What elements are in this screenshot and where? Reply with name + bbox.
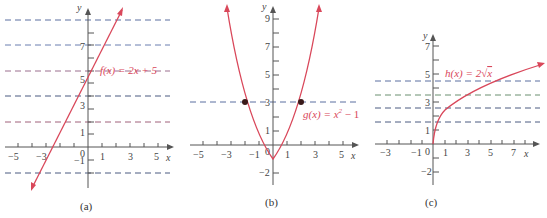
- svg-text:1: 1: [100, 151, 105, 162]
- intersection-point: [298, 99, 304, 105]
- svg-text:−3: −3: [221, 149, 232, 160]
- svg-text:1: 1: [443, 147, 448, 158]
- svg-text:1: 1: [80, 127, 85, 138]
- svg-text:5: 5: [425, 69, 430, 80]
- svg-text:7: 7: [80, 41, 85, 52]
- caption-b: (b): [265, 196, 278, 208]
- svg-text:−5: −5: [193, 149, 204, 160]
- intersection-point: [242, 99, 248, 105]
- svg-text:x: x: [523, 148, 529, 159]
- svg-text:5: 5: [339, 149, 344, 160]
- svg-text:−2: −2: [421, 166, 432, 177]
- svg-text:−3: −3: [380, 147, 391, 158]
- svg-text:5: 5: [154, 151, 159, 162]
- caption-a: (a): [80, 200, 92, 212]
- svg-text:y: y: [76, 2, 82, 13]
- graph-a: −5−3 01 35 x 75 31 −1 y f(x) = 2x + 5: [0, 0, 185, 218]
- svg-text:7: 7: [265, 41, 270, 52]
- svg-text:3: 3: [313, 149, 318, 160]
- function-label-f: f(x) = 2x + 5: [100, 64, 157, 77]
- svg-text:0: 0: [425, 146, 430, 157]
- svg-text:x: x: [165, 152, 171, 163]
- svg-text:−1: −1: [411, 147, 422, 158]
- graph-c: −3−1 01 35 7x 75 31 −2 y h(x) = 2√x: [365, 0, 547, 218]
- panel-b: −5−3 −10 13 5x 97 53 1−2 y g(x) = x2 − 1…: [185, 0, 365, 218]
- svg-text:y: y: [422, 30, 428, 41]
- graph-b: −5−3 −10 13 5x 97 53 1−2 y g(x) = x2 − 1: [185, 0, 365, 218]
- function-label-g: g(x) = x2 − 1: [303, 107, 359, 121]
- svg-text:3: 3: [128, 151, 133, 162]
- svg-text:y: y: [261, 1, 267, 12]
- svg-text:1: 1: [425, 125, 430, 136]
- svg-text:3: 3: [80, 100, 85, 111]
- svg-text:5: 5: [265, 69, 270, 80]
- svg-text:3: 3: [465, 147, 470, 158]
- svg-text:3: 3: [265, 97, 270, 108]
- svg-text:9: 9: [265, 13, 270, 24]
- svg-text:−3: −3: [36, 151, 47, 162]
- svg-text:7: 7: [511, 147, 516, 158]
- svg-text:1: 1: [285, 149, 290, 160]
- svg-text:x: x: [350, 150, 356, 161]
- svg-text:−5: −5: [8, 151, 19, 162]
- svg-text:7: 7: [425, 41, 430, 52]
- svg-text:−2: −2: [259, 167, 270, 178]
- panel-c: −3−1 01 35 7x 75 31 −2 y h(x) = 2√x (c): [365, 0, 547, 218]
- caption-c: (c): [425, 196, 437, 208]
- svg-text:5: 5: [488, 147, 493, 158]
- panel-a: −5−3 01 35 x 75 31 −1 y f(x) = 2x + 5 (a…: [0, 0, 185, 218]
- svg-text:1: 1: [265, 125, 270, 136]
- svg-text:−1: −1: [74, 155, 85, 166]
- function-label-h: h(x) = 2√x: [445, 67, 492, 80]
- svg-text:−1: −1: [249, 149, 260, 160]
- svg-text:3: 3: [425, 97, 430, 108]
